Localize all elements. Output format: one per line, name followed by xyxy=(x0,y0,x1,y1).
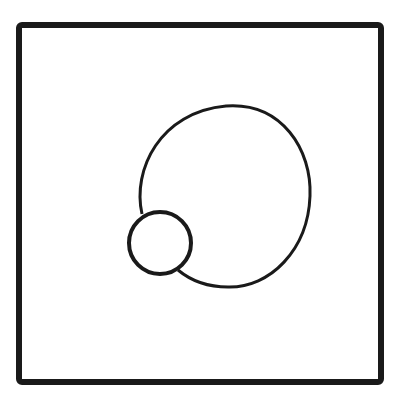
diagram-canvas xyxy=(0,0,408,418)
small-circle xyxy=(129,212,191,274)
square-frame xyxy=(19,25,381,382)
